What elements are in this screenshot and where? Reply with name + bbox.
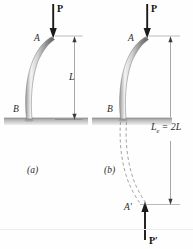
point-label-b-top: A xyxy=(128,34,134,44)
point-label-a-top: A xyxy=(34,34,40,44)
dimension-label-b-value: = 2L xyxy=(159,121,181,132)
reaction-arrow-b xyxy=(141,202,148,241)
caption-b: (b) xyxy=(104,166,115,176)
point-label-a-base: B xyxy=(13,105,19,115)
load-arrow-a xyxy=(50,4,57,39)
figure-canvas: P A B L (a) P A B A′ Le= 2L (b) P′ xyxy=(0,0,193,249)
point-label-b-mirror: A′ xyxy=(124,203,132,213)
column-base-shadow-a xyxy=(25,118,34,121)
column-base-shadow-b xyxy=(119,118,128,121)
dimension-label-b: Le= 2L xyxy=(151,122,181,135)
ground-surface-a xyxy=(4,118,88,125)
mirrored-column-dashed-right xyxy=(126,122,145,203)
column-member-b xyxy=(120,37,149,119)
reaction-load-label-b: P′ xyxy=(149,236,158,246)
mirrored-column-dashed-left xyxy=(120,122,139,203)
load-label-b: P xyxy=(151,4,157,14)
column-member-a xyxy=(26,37,55,119)
point-label-b-base: B xyxy=(107,105,113,115)
caption-a: (a) xyxy=(27,166,38,176)
load-arrow-b xyxy=(144,4,151,39)
dimension-label-a: L xyxy=(69,72,75,82)
load-label-a: P xyxy=(57,4,63,14)
